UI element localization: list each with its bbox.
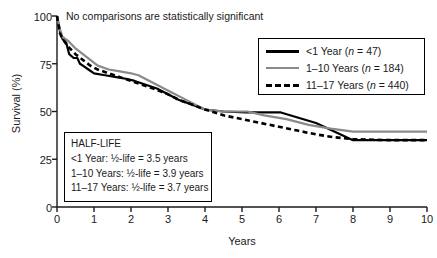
half-life-line-1-10-years: 1–10 Years: ½-life = 3.9 years	[71, 168, 211, 179]
legend-label-1-10-years: 1–10 Years (n = 184)	[306, 62, 404, 74]
half-life-title: HALF-LIFE	[71, 138, 211, 149]
significance-annotation: No comparisons are statistically signifi…	[66, 11, 263, 22]
chart-legend: <1 Year (n = 47) 1–10 Years (n = 184) 11…	[258, 38, 425, 95]
y-tick-label-25: 25	[22, 155, 52, 166]
y-tick-label-0: 0	[22, 203, 52, 214]
half-life-line-11-17-years: 11–17 Years: ½-life = 3.7 years	[71, 182, 211, 193]
legend-n-value-2: = 440)	[376, 79, 409, 91]
legend-n-value-0: = 47)	[354, 45, 381, 57]
legend-swatch-solid-black-icon	[266, 45, 299, 56]
legend-item-11-17-years: 11–17 Years (n = 440)	[266, 76, 409, 93]
x-tick-label-6: 6	[267, 214, 291, 225]
legend-item-1-10-years: 1–10 Years (n = 184)	[266, 59, 404, 76]
legend-label-text-0: <1 Year (	[306, 45, 348, 57]
x-tick-label-7: 7	[304, 214, 328, 225]
x-tick-label-5: 5	[230, 214, 254, 225]
legend-item-under-1-year: <1 Year (n = 47)	[266, 42, 381, 59]
x-tick-label-4: 4	[193, 214, 217, 225]
x-tick-label-0: 0	[45, 214, 69, 225]
legend-label-under-1-year: <1 Year (n = 47)	[306, 45, 381, 57]
legend-swatch-solid-gray-icon	[266, 62, 299, 73]
y-tick-label-50: 50	[22, 107, 52, 118]
legend-label-text-1: 1–10 Years (	[306, 62, 365, 74]
y-tick-label-100: 100	[22, 12, 52, 23]
half-life-box: HALF-LIFE <1 Year: ½-life = 3.5 years 1–…	[64, 132, 212, 202]
y-tick-label-75: 75	[22, 60, 52, 71]
half-life-line-under-1-year: <1 Year: ½-life = 3.5 years	[71, 153, 211, 164]
x-axis-title: Years	[57, 236, 427, 247]
y-axis-title: Survival (%)	[11, 64, 22, 144]
legend-label-text-2: 11–17 Years (	[306, 79, 370, 91]
x-tick-label-10: 10	[415, 214, 437, 225]
survival-chart-figure: 100 75 50 25 0 0 1 2 3 4 5 6 7 8 9 10 No…	[0, 0, 437, 258]
x-tick-label-3: 3	[156, 214, 180, 225]
legend-n-value-1: = 184)	[371, 62, 404, 74]
x-tick-label-1: 1	[82, 214, 106, 225]
legend-swatch-dashed-black-icon	[266, 79, 299, 90]
legend-label-11-17-years: 11–17 Years (n = 440)	[306, 79, 409, 91]
x-tick-label-9: 9	[378, 214, 402, 225]
x-tick-label-2: 2	[119, 214, 143, 225]
x-tick-label-8: 8	[341, 214, 365, 225]
